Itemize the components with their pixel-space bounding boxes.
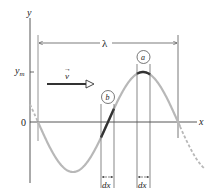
y-axis-label: y — [26, 7, 32, 18]
wave-extension-right — [180, 126, 205, 168]
dx-a-label: dx — [138, 180, 147, 190]
x-axis-label: x — [198, 116, 204, 127]
element-a-segment — [137, 72, 150, 74]
wavelength-label: λ — [102, 37, 108, 49]
wave-extension-left — [30, 104, 38, 122]
origin-label: 0 — [21, 117, 26, 128]
element-b-label: b — [106, 93, 110, 102]
dx-b-label: dx — [102, 180, 111, 190]
element-a-label: a — [141, 53, 145, 62]
velocity-label: v — [65, 71, 69, 81]
element-b-segment — [101, 109, 114, 138]
amplitude-label: ym — [14, 65, 25, 78]
wave-diagram: y x 0 ym λ → v b a dx dx — [0, 0, 219, 195]
velocity-arrowhead — [86, 80, 94, 88]
